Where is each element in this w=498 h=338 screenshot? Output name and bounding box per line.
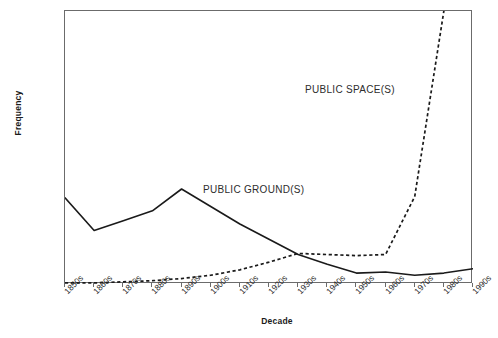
series-line-public-spaces	[65, 11, 473, 283]
series-canvas	[65, 11, 473, 284]
x-axis-title: Decade	[0, 316, 498, 326]
plot-area	[64, 10, 472, 283]
chart-container: Frequency 050100150200250 1850s1860s1870…	[0, 0, 498, 338]
y-axis-title: Frequency	[13, 53, 23, 173]
series-label-public-spaces: PUBLIC SPACE(S)	[305, 84, 395, 95]
series-label-public-grounds: PUBLIC GROUND(S)	[203, 184, 304, 195]
x-tick-label: 1990s	[470, 273, 493, 296]
